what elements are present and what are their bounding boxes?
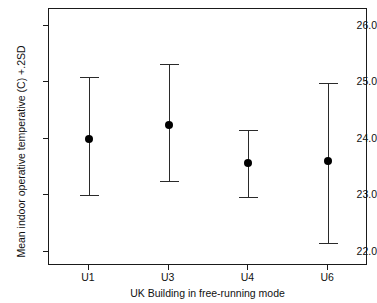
error-bar-lower-cap bbox=[160, 181, 179, 182]
data-point-marker bbox=[244, 159, 252, 167]
data-point-marker bbox=[165, 121, 173, 129]
error-bar-lower-cap bbox=[80, 195, 99, 196]
plot-area bbox=[48, 8, 367, 265]
data-point-marker bbox=[324, 157, 332, 165]
error-bar-upper-cap bbox=[319, 83, 338, 84]
y-axis-title: Mean indoor operative temperative (C) +.… bbox=[14, 0, 28, 303]
error-bar-series bbox=[1, 1, 377, 303]
x-axis-title: UK Building in free-running mode bbox=[48, 287, 367, 299]
error-bar-upper-cap bbox=[80, 77, 99, 78]
error-bar-lower-cap bbox=[319, 243, 338, 244]
error-bar-upper-cap bbox=[160, 64, 179, 65]
chart-figure: 22.023.024.025.026.0 U1U3U4U6 Mean indoo… bbox=[0, 0, 377, 303]
data-point-marker bbox=[85, 135, 93, 143]
error-bar-lower-cap bbox=[239, 197, 258, 198]
error-bar-upper-cap bbox=[239, 130, 258, 131]
